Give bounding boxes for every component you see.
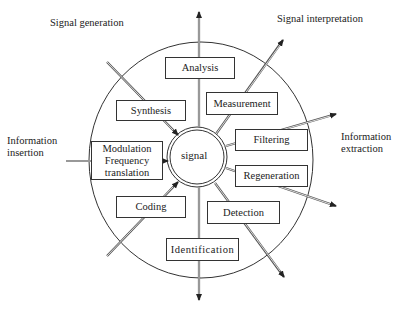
box-measurement: Measurement [206, 92, 278, 115]
label-signal-interpretation: Signal interpretation [277, 13, 363, 25]
box-synthesis: Synthesis [116, 100, 186, 121]
box-regeneration: Regeneration [235, 165, 308, 187]
signal-label: signal [181, 149, 207, 161]
box-detection: Detection [207, 201, 280, 224]
label-signal-generation: Signal generation [50, 17, 124, 29]
box-coding: Coding [116, 196, 186, 218]
box-modulation: Modulation Frequency translation [91, 141, 163, 180]
label-information-extraction: Information extraction [341, 131, 391, 155]
box-analysis: Analysis [165, 57, 235, 79]
label-information-insertion: Information insertion [7, 135, 57, 159]
box-identification: Identification [166, 238, 239, 261]
box-filtering: Filtering [235, 129, 308, 151]
